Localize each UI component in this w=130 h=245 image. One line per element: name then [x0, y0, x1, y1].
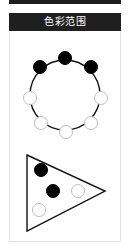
filled-node — [47, 185, 60, 198]
ring-diagram — [24, 52, 108, 139]
filled-node — [59, 52, 72, 65]
color-range-diagram — [0, 0, 130, 245]
filled-node — [85, 61, 98, 74]
empty-node — [60, 126, 73, 139]
empty-node — [35, 117, 48, 130]
empty-node — [95, 92, 108, 105]
filled-node — [34, 61, 47, 74]
empty-node — [33, 204, 46, 217]
empty-node — [85, 117, 98, 130]
empty-node — [72, 185, 85, 198]
triangle-diagram — [27, 155, 105, 231]
filled-node — [35, 164, 48, 177]
empty-node — [24, 92, 37, 105]
